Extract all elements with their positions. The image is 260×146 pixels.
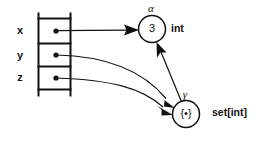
slot-label-x: x xyxy=(17,24,24,36)
tyvar-label-alpha: α xyxy=(148,2,154,14)
diagram-svg: x y z α 3 int xyxy=(0,0,260,146)
edge-x-shaft xyxy=(56,30,128,31)
edge-gamma-shaft xyxy=(161,52,182,103)
node-alpha-value: 3 xyxy=(149,22,155,34)
edge-gamma-to-alpha xyxy=(157,42,183,103)
edge-z-to-gamma xyxy=(56,78,173,116)
edge-gamma-arrowhead xyxy=(157,42,167,58)
tyvar-label-gamma: γ xyxy=(183,88,188,100)
slot-label-y: y xyxy=(17,49,24,61)
slot-label-z: z xyxy=(17,71,23,83)
edge-y-to-gamma xyxy=(56,55,175,108)
node-gamma-value: {•} xyxy=(180,107,192,119)
node-alpha-type: int xyxy=(171,22,184,34)
edge-x-to-alpha xyxy=(56,25,139,36)
diagram-canvas: x y z α 3 int xyxy=(0,0,260,146)
node-alpha[interactable]: α 3 int xyxy=(139,2,185,43)
node-gamma[interactable]: γ {•} set[int] xyxy=(173,88,248,128)
node-gamma-type: set[int] xyxy=(212,106,247,118)
edge-y-shaft xyxy=(56,55,166,99)
edge-z-shaft xyxy=(56,78,163,107)
